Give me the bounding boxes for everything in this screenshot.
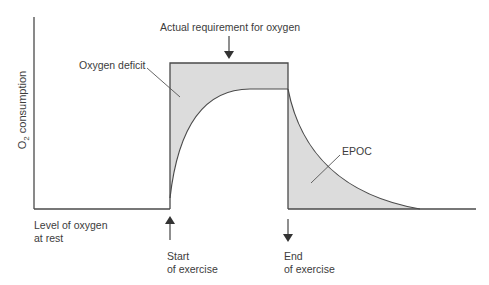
start-label-line1: Start [167, 250, 189, 263]
start-arrow-icon [165, 216, 175, 224]
end-arrow-icon [283, 234, 293, 242]
end-label-line2: of exercise [284, 263, 335, 276]
rest-label-line1: Level of oxygen [34, 219, 108, 232]
rest-label-line2: at rest [34, 232, 63, 245]
requirement-arrow-icon [224, 51, 234, 59]
end-label-line1: End [284, 250, 303, 263]
requirement-label: Actual requirement for oxygen [160, 21, 300, 34]
start-label-line2: of exercise [167, 263, 218, 276]
deficit-label: Oxygen deficit [79, 59, 146, 72]
epoc-label: EPOC [342, 145, 372, 158]
oxygen-deficit-diagram [0, 0, 489, 285]
y-axis-label: O2 consumption [16, 10, 30, 210]
